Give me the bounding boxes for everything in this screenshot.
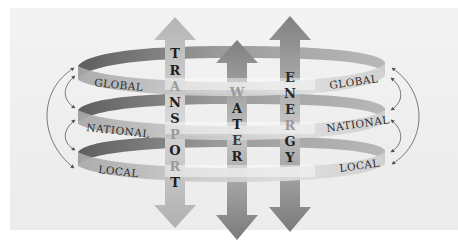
connector-global-national-right <box>391 78 401 110</box>
svg-text:T: T <box>170 46 180 61</box>
svg-text:T: T <box>170 175 180 190</box>
svg-text:G: G <box>284 134 295 149</box>
svg-text:E: E <box>285 102 295 117</box>
svg-text:E: E <box>285 70 295 85</box>
svg-text:W: W <box>229 85 245 100</box>
svg-text:R: R <box>285 118 296 133</box>
svg-text:E: E <box>232 133 242 148</box>
svg-text:T: T <box>232 117 242 132</box>
column-energy-letters: E N E R G Y <box>284 70 296 165</box>
column-transport-letters: T R A N S P O R T <box>169 46 181 190</box>
svg-text:R: R <box>232 149 243 164</box>
svg-text:S: S <box>170 111 179 126</box>
svg-text:A: A <box>169 79 181 94</box>
svg-text:A: A <box>231 101 243 116</box>
svg-text:N: N <box>284 86 296 101</box>
connector-global-national-left <box>65 76 75 108</box>
scales-sectors-diagram: GLOBAL NATIONAL LOCAL GLOBAL NATIONAL LO… <box>0 0 458 247</box>
connector-national-local-left <box>65 120 75 150</box>
connector-national-local-right <box>391 120 401 152</box>
connectors-right <box>391 68 419 164</box>
connector-global-local-left <box>47 68 74 168</box>
connectors-left <box>47 68 75 168</box>
label-global-right: GLOBAL <box>329 72 379 91</box>
svg-text:P: P <box>170 127 180 142</box>
svg-text:R: R <box>170 159 181 174</box>
svg-text:N: N <box>169 95 181 110</box>
svg-text:O: O <box>169 143 180 158</box>
svg-text:Y: Y <box>284 150 295 165</box>
svg-text:R: R <box>170 63 181 78</box>
